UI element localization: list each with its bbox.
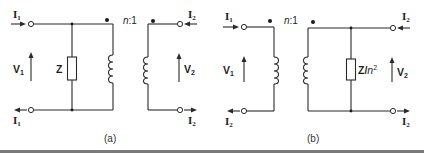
label-v2: V2 — [397, 66, 408, 79]
label-i2-top: I2 — [402, 10, 410, 24]
current-arrow-i2-out-left — [227, 109, 240, 114]
current-arrow-i1-in — [11, 22, 26, 27]
label-impedance-z-over-n2: Z/n2 — [358, 64, 377, 76]
junction-dot — [71, 23, 74, 26]
label-i2-bottom-left: I2 — [225, 115, 233, 129]
label-i1-top: I1 — [13, 8, 21, 22]
polarity-dot-primary — [268, 19, 272, 23]
label-i2-bottom: I2 — [188, 114, 196, 128]
label-i1-top: I1 — [225, 10, 233, 24]
label-i1-bottom: I1 — [13, 114, 21, 128]
primary-circuit-b — [247, 27, 279, 111]
panel-b: I1 I2 I2 I2 V1 V2 Z/n2 n:1 (b) — [223, 10, 410, 144]
terminal-top-left — [241, 24, 246, 29]
current-arrow-i1-out — [14, 108, 27, 113]
label-i2-top: I2 — [188, 8, 196, 22]
secondary-circuit-a — [144, 24, 178, 110]
voltage-arrow-v1 — [242, 56, 247, 82]
current-arrow-i1-in — [223, 25, 239, 30]
voltage-arrow-v2 — [390, 57, 395, 82]
label-turns-ratio: n:1 — [123, 15, 137, 26]
terminal-top-left — [28, 21, 33, 26]
voltage-arrow-v2 — [177, 53, 182, 82]
terminal-bottom-right — [390, 108, 395, 113]
caption-a: (a) — [104, 133, 116, 144]
voltage-arrow-v1 — [29, 52, 34, 81]
polarity-dot-secondary — [151, 19, 155, 23]
label-v2: V2 — [184, 63, 195, 76]
terminal-top-right — [390, 25, 395, 30]
terminal-bottom-left — [241, 108, 246, 113]
transformer-equivalent-circuits: I1 I1 I2 I2 V1 V2 Z n:1 (a) — [0, 0, 424, 154]
polarity-dot-primary — [105, 18, 109, 22]
label-v1: V1 — [223, 64, 234, 77]
panel-a: I1 I1 I2 I2 V1 V2 Z n:1 (a) — [11, 8, 197, 144]
label-v1: V1 — [13, 63, 24, 76]
terminal-bottom-left — [28, 107, 33, 112]
polarity-dot-secondary — [311, 20, 315, 24]
impedance-z-box — [68, 57, 77, 80]
label-turns-ratio: n:1 — [284, 15, 298, 26]
impedance-z-over-n2-box — [347, 59, 356, 80]
terminal-top-right — [177, 21, 182, 26]
terminal-bottom-right — [177, 107, 182, 112]
bottom-rule — [0, 150, 424, 153]
current-arrow-i2-out — [397, 109, 410, 114]
primary-circuit-a — [34, 24, 113, 110]
primary-winding-a — [109, 55, 114, 83]
junction-dot — [350, 110, 353, 113]
label-impedance-z: Z — [56, 63, 63, 75]
current-arrow-i2-in — [397, 26, 410, 31]
junction-dot — [71, 109, 74, 112]
junction-dot — [350, 27, 353, 30]
current-arrow-i2-out — [184, 108, 197, 113]
caption-b: (b) — [307, 133, 319, 144]
current-arrow-i2-in — [184, 22, 197, 27]
label-i2-bottom: I2 — [402, 115, 410, 129]
